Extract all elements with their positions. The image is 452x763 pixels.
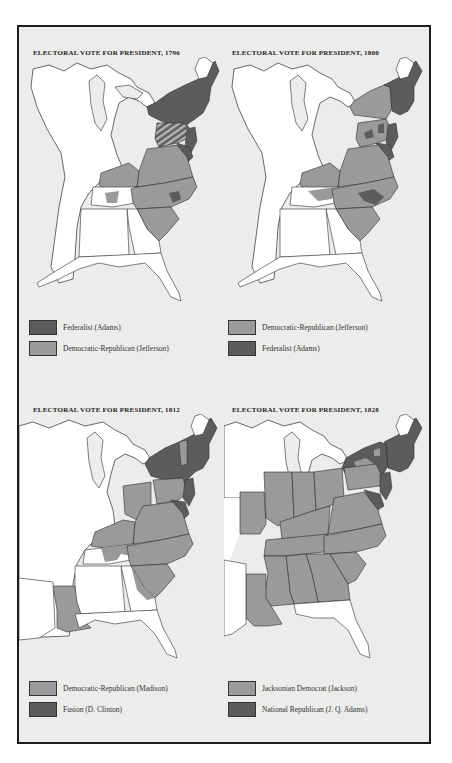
legend-item-democratic-republican: Democratic-Republican (Jefferson) bbox=[228, 317, 368, 338]
map-title: ELECTORAL VOTE FOR PRESIDENT, 1800 bbox=[232, 49, 379, 57]
map-panel-1796: ELECTORAL VOTE FOR PRESIDENT, 1796 bbox=[19, 27, 224, 384]
map-legend: Federalist (Adams) Democratic-Republican… bbox=[29, 317, 169, 359]
legend-swatch bbox=[29, 681, 57, 696]
map-panel-1828: ELECTORAL VOTE FOR PRESIDENT, 1828 bbox=[224, 384, 429, 741]
legend-label: Democratic-Republican (Jefferson) bbox=[63, 344, 169, 353]
map-title: ELECTORAL VOTE FOR PRESIDENT, 1828 bbox=[232, 406, 379, 414]
map-title: ELECTORAL VOTE FOR PRESIDENT, 1812 bbox=[33, 406, 180, 414]
legend-swatch bbox=[29, 341, 57, 356]
map-legend: Democratic-Republican (Jefferson) Federa… bbox=[228, 317, 368, 359]
legend-label: Federalist (Adams) bbox=[63, 323, 121, 332]
map-legend: Jacksonian Democrat (Jackson) National R… bbox=[228, 678, 367, 720]
legend-label: Federalist (Adams) bbox=[262, 344, 320, 353]
legend-item-national-republican: National Republican (J. Q. Adams) bbox=[228, 699, 367, 720]
legend-swatch bbox=[228, 681, 256, 696]
legend-label: Democratic-Republican (Jefferson) bbox=[262, 323, 368, 332]
electoral-map-1828 bbox=[224, 414, 429, 659]
legend-swatch bbox=[29, 320, 57, 335]
legend-item-federalist: Federalist (Adams) bbox=[228, 338, 368, 359]
legend-label: Fusion (D. Clinton) bbox=[63, 705, 122, 714]
map-panel-1800: ELECTORAL VOTE FOR PRESIDENT, 1800 bbox=[224, 27, 429, 384]
legend-label: National Republican (J. Q. Adams) bbox=[262, 705, 367, 714]
legend-item-fusion: Fusion (D. Clinton) bbox=[29, 699, 168, 720]
legend-item-jacksonian-democrat: Jacksonian Democrat (Jackson) bbox=[228, 678, 367, 699]
map-frame: ELECTORAL VOTE FOR PRESIDENT, 1796 bbox=[17, 25, 431, 744]
electoral-map-1796 bbox=[19, 57, 224, 302]
map-legend: Democratic-Republican (Madison) Fusion (… bbox=[29, 678, 168, 720]
legend-swatch bbox=[228, 341, 256, 356]
legend-item-federalist: Federalist (Adams) bbox=[29, 317, 169, 338]
legend-item-democratic-republican: Democratic-Republican (Madison) bbox=[29, 678, 168, 699]
legend-item-democratic-republican: Democratic-Republican (Jefferson) bbox=[29, 338, 169, 359]
legend-label: Democratic-Republican (Madison) bbox=[63, 684, 168, 693]
legend-label: Jacksonian Democrat (Jackson) bbox=[262, 684, 357, 693]
legend-swatch bbox=[228, 320, 256, 335]
map-panel-1812: ELECTORAL VOTE FOR PRESIDENT, 1812 bbox=[19, 384, 224, 741]
legend-swatch bbox=[29, 702, 57, 717]
electoral-map-1812 bbox=[19, 414, 224, 659]
map-title: ELECTORAL VOTE FOR PRESIDENT, 1796 bbox=[33, 49, 180, 57]
electoral-map-1800 bbox=[224, 57, 429, 302]
legend-swatch bbox=[228, 702, 256, 717]
